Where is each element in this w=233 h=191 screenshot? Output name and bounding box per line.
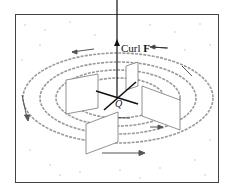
vector-f: F xyxy=(143,42,150,54)
diagram-canvas xyxy=(0,0,233,191)
curl-f-label: Curl F xyxy=(121,42,150,54)
curl-diagram: Curl F Q xyxy=(0,0,233,191)
point-q-text: Q xyxy=(115,98,122,109)
paddle-front-left xyxy=(86,112,118,154)
curl-text: Curl xyxy=(121,42,143,54)
point-q-label: Q xyxy=(115,98,122,109)
paddle-back-left xyxy=(66,74,98,114)
curl-arrowhead-icon xyxy=(114,39,120,46)
